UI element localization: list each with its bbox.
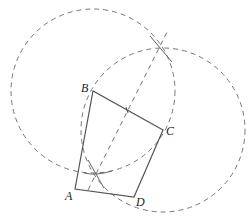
geometry-diagram: B C A D: [0, 0, 252, 217]
arc-mark-top: [150, 36, 172, 62]
quadrilateral-ABCD: [75, 91, 163, 197]
label-D: D: [135, 195, 145, 209]
label-C: C: [166, 124, 175, 138]
label-A: A: [64, 189, 73, 203]
arc-mark-bottom: [84, 171, 112, 174]
label-B: B: [81, 81, 89, 95]
